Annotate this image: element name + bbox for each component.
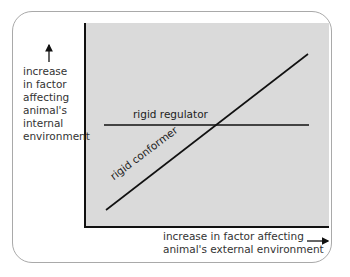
x-axis-label: increase in factor affecting animal's ex… (163, 230, 324, 256)
y-axis-label: increase in factor affecting animal's in… (23, 65, 90, 143)
rigid-regulator-label: rigid regulator (133, 108, 208, 120)
rigid-conformer-line (106, 54, 308, 210)
